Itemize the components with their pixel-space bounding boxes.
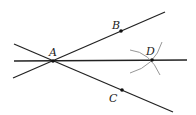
line-AD	[14, 60, 187, 61]
label-C: C	[109, 92, 118, 105]
point-A	[51, 59, 55, 63]
diagram-canvas: ABCD	[0, 0, 196, 115]
label-D: D	[145, 45, 155, 58]
point-C	[120, 88, 124, 92]
point-D	[150, 58, 154, 62]
label-B: B	[111, 19, 120, 32]
label-A: A	[48, 46, 57, 59]
